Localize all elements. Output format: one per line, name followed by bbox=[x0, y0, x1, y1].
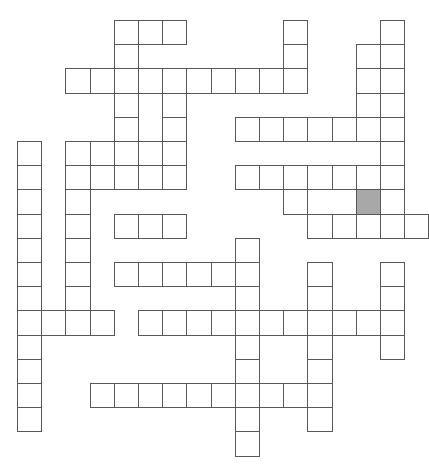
crossword-cell[interactable] bbox=[380, 262, 405, 287]
crossword-cell[interactable] bbox=[17, 310, 42, 335]
crossword-cell[interactable] bbox=[380, 141, 405, 166]
crossword-cell[interactable] bbox=[283, 20, 308, 45]
crossword-cell[interactable] bbox=[235, 68, 260, 93]
crossword-cell[interactable] bbox=[332, 117, 357, 142]
crossword-cell[interactable] bbox=[17, 383, 42, 408]
crossword-cell[interactable] bbox=[235, 117, 260, 142]
crossword-cell[interactable] bbox=[283, 44, 308, 69]
crossword-cell[interactable] bbox=[65, 68, 90, 93]
crossword-cell[interactable] bbox=[235, 165, 260, 190]
crossword-cell[interactable] bbox=[235, 310, 260, 335]
crossword-cell[interactable] bbox=[186, 262, 211, 287]
crossword-cell[interactable] bbox=[235, 335, 260, 360]
crossword-cell[interactable] bbox=[90, 141, 115, 166]
crossword-cell[interactable] bbox=[138, 141, 163, 166]
crossword-cell[interactable] bbox=[211, 262, 236, 287]
crossword-cell[interactable] bbox=[17, 214, 42, 239]
crossword-cell[interactable] bbox=[17, 286, 42, 311]
crossword-cell[interactable] bbox=[17, 359, 42, 384]
crossword-cell[interactable] bbox=[90, 68, 115, 93]
crossword-cell[interactable] bbox=[17, 407, 42, 432]
crossword-cell[interactable] bbox=[162, 68, 187, 93]
crossword-cell[interactable] bbox=[17, 165, 42, 190]
crossword-cell[interactable] bbox=[307, 286, 332, 311]
crossword-cell[interactable] bbox=[114, 214, 139, 239]
crossword-cell[interactable] bbox=[356, 44, 381, 69]
crossword-cell[interactable] bbox=[283, 310, 308, 335]
crossword-cell[interactable] bbox=[114, 44, 139, 69]
crossword-cell[interactable] bbox=[235, 407, 260, 432]
crossword-cell[interactable] bbox=[259, 383, 284, 408]
crossword-cell[interactable] bbox=[17, 189, 42, 214]
crossword-cell[interactable] bbox=[283, 165, 308, 190]
crossword-cell[interactable] bbox=[356, 214, 381, 239]
crossword-cell[interactable] bbox=[17, 335, 42, 360]
crossword-cell[interactable] bbox=[259, 68, 284, 93]
crossword-cell[interactable] bbox=[307, 262, 332, 287]
crossword-cell[interactable] bbox=[283, 117, 308, 142]
crossword-cell[interactable] bbox=[65, 214, 90, 239]
crossword-cell[interactable] bbox=[162, 93, 187, 118]
crossword-cell[interactable] bbox=[90, 310, 115, 335]
crossword-cell[interactable] bbox=[138, 214, 163, 239]
crossword-cell[interactable] bbox=[356, 165, 381, 190]
crossword-cell[interactable] bbox=[235, 238, 260, 263]
crossword-cell[interactable] bbox=[41, 310, 66, 335]
crossword-cell[interactable] bbox=[356, 117, 381, 142]
crossword-cell[interactable] bbox=[162, 383, 187, 408]
crossword-cell[interactable] bbox=[235, 262, 260, 287]
crossword-cell[interactable] bbox=[307, 359, 332, 384]
crossword-cell[interactable] bbox=[283, 383, 308, 408]
crossword-cell[interactable] bbox=[307, 383, 332, 408]
crossword-cell[interactable] bbox=[235, 431, 260, 456]
crossword-cell[interactable] bbox=[380, 310, 405, 335]
crossword-cell[interactable] bbox=[332, 165, 357, 190]
crossword-cell[interactable] bbox=[307, 214, 332, 239]
crossword-cell[interactable] bbox=[114, 383, 139, 408]
crossword-cell[interactable] bbox=[186, 310, 211, 335]
crossword-cell[interactable] bbox=[162, 262, 187, 287]
crossword-cell[interactable] bbox=[114, 262, 139, 287]
crossword-cell[interactable] bbox=[404, 214, 429, 239]
crossword-cell[interactable] bbox=[138, 310, 163, 335]
crossword-cell[interactable] bbox=[235, 286, 260, 311]
crossword-cell[interactable] bbox=[211, 383, 236, 408]
crossword-cell[interactable] bbox=[211, 68, 236, 93]
crossword-cell[interactable] bbox=[380, 117, 405, 142]
crossword-cell[interactable] bbox=[65, 286, 90, 311]
crossword-cell[interactable] bbox=[138, 68, 163, 93]
crossword-cell[interactable] bbox=[65, 262, 90, 287]
crossword-cell[interactable] bbox=[162, 117, 187, 142]
crossword-cell[interactable] bbox=[186, 68, 211, 93]
crossword-cell[interactable] bbox=[65, 165, 90, 190]
crossword-cell[interactable] bbox=[162, 214, 187, 239]
crossword-cell[interactable] bbox=[332, 310, 357, 335]
crossword-cell[interactable] bbox=[17, 238, 42, 263]
crossword-cell[interactable] bbox=[380, 335, 405, 360]
crossword-cell[interactable] bbox=[259, 117, 284, 142]
crossword-cell[interactable] bbox=[283, 68, 308, 93]
crossword-cell[interactable] bbox=[138, 165, 163, 190]
crossword-cell[interactable] bbox=[283, 189, 308, 214]
crossword-cell[interactable] bbox=[380, 165, 405, 190]
crossword-cell[interactable] bbox=[114, 165, 139, 190]
crossword-cell[interactable] bbox=[356, 68, 381, 93]
crossword-cell[interactable] bbox=[186, 383, 211, 408]
crossword-cell[interactable] bbox=[114, 117, 139, 142]
crossword-cell[interactable] bbox=[235, 359, 260, 384]
crossword-cell[interactable] bbox=[162, 141, 187, 166]
crossword-cell[interactable] bbox=[114, 93, 139, 118]
crossword-cell[interactable] bbox=[307, 310, 332, 335]
crossword-cell[interactable] bbox=[356, 310, 381, 335]
crossword-cell[interactable] bbox=[65, 238, 90, 263]
crossword-cell[interactable] bbox=[138, 383, 163, 408]
crossword-cell[interactable] bbox=[90, 165, 115, 190]
crossword-cell[interactable] bbox=[307, 407, 332, 432]
crossword-cell[interactable] bbox=[380, 44, 405, 69]
crossword-cell[interactable] bbox=[17, 141, 42, 166]
crossword-cell[interactable] bbox=[65, 310, 90, 335]
crossword-cell[interactable] bbox=[235, 383, 260, 408]
crossword-cell[interactable] bbox=[211, 310, 236, 335]
crossword-cell[interactable] bbox=[138, 20, 163, 45]
